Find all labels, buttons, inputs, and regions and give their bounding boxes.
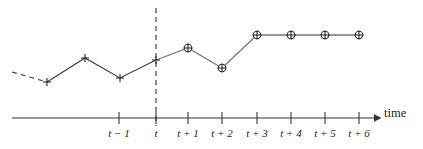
tick-label-t-minus-1: t − 1 [108,127,129,139]
tick-label-t-plus-1: t + 1 [177,127,198,139]
crossed-circle-marker [184,44,193,53]
plus-marker [81,54,89,62]
tick-label-t-plus-5: t + 5 [314,127,335,139]
plus-marker [43,78,51,86]
tick-label-t-plus-4: t + 4 [280,127,301,139]
plus-marker [116,74,124,82]
plus-marker [152,56,160,64]
observed-plus-markers [43,54,160,86]
x-axis-title: time [384,106,406,121]
tick-label-t-plus-2: t + 2 [211,127,232,139]
tick-label-t: t [154,127,157,139]
tick-label-t-plus-3: t + 3 [246,127,267,139]
crossed-circle-marker [287,31,296,40]
tick-label-t-plus-6: t + 6 [348,127,369,139]
history-dashed-segment [12,72,47,82]
time-series-figure: t − 1 t t + 1 t + 2 t + 3 t + 4 t + 5 t … [0,0,423,149]
crossed-circle-marker [355,31,364,40]
observed-series-line [47,58,156,82]
forecast-crossed-circle-markers [184,31,364,73]
arrow-right-icon [374,114,382,122]
crossed-circle-marker [321,31,330,40]
